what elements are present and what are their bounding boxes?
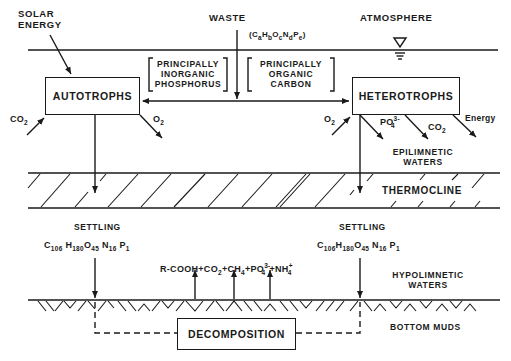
bottom-muds-label: BOTTOM MUDS xyxy=(390,322,461,332)
decomposition-products: R-COOH+CO2+CH4+PO3-4+NH+4 xyxy=(160,264,292,274)
thermocline-label: THERMOCLINE xyxy=(380,185,464,197)
epilimnetic-waters-label: EPILIMNETIC WATERS xyxy=(388,147,458,167)
atmosphere-label: ATMOSPHERE xyxy=(360,12,432,23)
heterotroph-o2-in: O2 xyxy=(324,114,335,124)
diagram-lines xyxy=(0,0,511,361)
autotrophs-box: AUTOTROPHS xyxy=(45,77,140,115)
hypolimnetic-waters-label: HYPOLIMNETIC WATERS xyxy=(388,270,468,290)
settling-label-right: SETTLING xyxy=(339,222,386,232)
settling-formula-right: C106H180O45 N16 P1 xyxy=(317,240,400,250)
autotroph-o2-out: O2 xyxy=(153,114,164,124)
settling-formula-left: C106 H180O45 N16 P1 xyxy=(44,240,130,250)
solar-energy-arrow xyxy=(50,35,71,74)
inorganic-phosphorus-label: PRINCIPALLY INORGANIC PHOSPHORUS xyxy=(152,59,224,90)
solar-energy-line1: SOLAR xyxy=(18,8,62,19)
decomposition-box: DECOMPOSITION xyxy=(177,318,296,350)
energy-label: Energy xyxy=(465,113,496,123)
waste-formula: (CaHbOcNdPe) xyxy=(249,30,306,39)
water-level-icon xyxy=(394,38,406,59)
heterotroph-co2-out: CO2 xyxy=(428,122,446,132)
waste-label: WASTE xyxy=(209,12,246,23)
heterotrophs-box: HETEROTROPHS xyxy=(352,77,460,115)
solar-energy-line2: ENERGY xyxy=(18,19,62,30)
solar-energy-label: SOLAR ENERGY xyxy=(18,8,62,31)
heterotroph-po4-out: PO3-4 xyxy=(380,117,395,127)
settling-label-left: SETTLING xyxy=(74,222,121,232)
organic-carbon-label: PRINCIPALLY ORGANIC CARBON xyxy=(252,59,330,90)
autotroph-co2-in: CO2 xyxy=(10,114,28,124)
mud-hatching xyxy=(38,301,476,311)
